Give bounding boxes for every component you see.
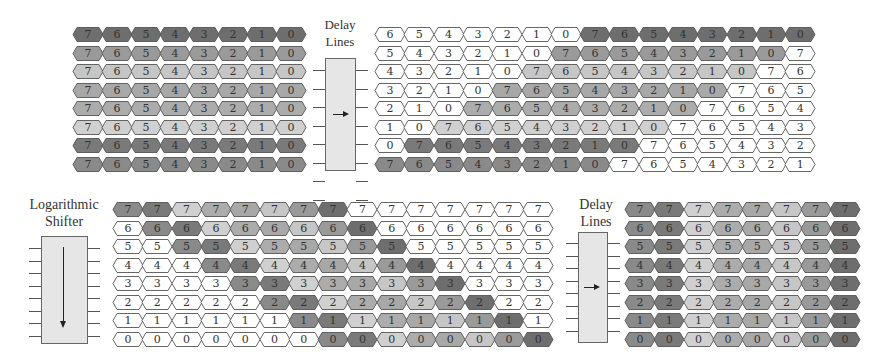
cell-value: 0 [347, 332, 377, 347]
cell-value: 3 [492, 157, 522, 172]
data-cell: 1 [697, 64, 727, 79]
label-line: Lines [568, 213, 624, 230]
data-cell: 4 [375, 64, 405, 79]
data-cell: 5 [772, 239, 802, 254]
data-cell: 3 [377, 276, 407, 291]
data-cell: 1 [713, 313, 743, 328]
label-line: Logarithmic [10, 196, 118, 213]
data-cell: 2 [494, 295, 524, 310]
cell-value: 3 [522, 138, 552, 153]
cell-value: 2 [580, 120, 610, 135]
data-cell: 2 [142, 295, 172, 310]
cell-value: 3 [172, 276, 202, 291]
data-cell: 0 [377, 332, 407, 347]
data-cell: 5 [375, 46, 405, 61]
cell-value: 3 [463, 27, 493, 42]
cell-value: 3 [494, 276, 524, 291]
pin-line [313, 107, 325, 108]
data-cell: 2 [375, 101, 405, 116]
data-cell: 3 [625, 276, 655, 291]
data-cell: 4 [465, 258, 495, 273]
data-cell: 2 [218, 138, 248, 153]
cell-value: 7 [230, 202, 260, 217]
data-cell: 2 [260, 295, 290, 310]
data-cell: 5 [727, 120, 757, 135]
cell-value: 0 [830, 332, 860, 347]
cell-value: 7 [404, 138, 434, 153]
data-cell: 6 [102, 101, 132, 116]
data-cell: 6 [289, 221, 319, 236]
data-cell: 6 [102, 46, 132, 61]
data-cell: 6 [756, 83, 786, 98]
cell-value: 6 [102, 120, 132, 135]
label-line: Shifter [10, 213, 118, 230]
data-cell: 7 [492, 83, 522, 98]
data-cell: 6 [654, 221, 684, 236]
cell-value: 6 [727, 101, 757, 116]
data-cell: 4 [113, 258, 143, 273]
data-cell: 6 [435, 221, 465, 236]
cell-value: 0 [435, 332, 465, 347]
data-cell: 3 [289, 276, 319, 291]
data-cell: 7 [625, 202, 655, 217]
cell-value: 6 [375, 27, 405, 42]
cell-value: 1 [609, 120, 639, 135]
data-cell: 5 [131, 138, 161, 153]
pin-line [566, 306, 578, 307]
data-cell: 4 [160, 101, 190, 116]
pin-line [356, 144, 368, 145]
data-cell: 3 [668, 46, 698, 61]
data-cell: 0 [276, 64, 306, 79]
delay-lines-bottom-label: Delay Lines [568, 196, 624, 230]
cell-value: 3 [189, 27, 219, 42]
cell-value: 0 [113, 332, 143, 347]
cell-value: 7 [772, 202, 802, 217]
cell-value: 0 [756, 46, 786, 61]
pin-line [566, 318, 578, 319]
cell-value: 3 [654, 276, 684, 291]
data-cell: 0 [276, 83, 306, 98]
cell-value: 5 [377, 239, 407, 254]
cell-value: 4 [756, 120, 786, 135]
data-cell: 4 [639, 46, 669, 61]
cell-value: 1 [463, 64, 493, 79]
data-cell: 6 [801, 221, 831, 236]
cell-value: 5 [625, 239, 655, 254]
cell-value: 2 [435, 295, 465, 310]
data-cell: 4 [404, 46, 434, 61]
data-cell: 0 [347, 332, 377, 347]
cell-value: 5 [347, 239, 377, 254]
cell-value: 3 [742, 276, 772, 291]
data-cell: 4 [347, 258, 377, 273]
cell-value: 5 [131, 120, 161, 135]
pin-line [566, 281, 578, 282]
logarithmic-shifter-label: Logarithmic Shifter [10, 196, 118, 230]
cell-value: 6 [102, 157, 132, 172]
cell-value: 4 [801, 258, 831, 273]
data-cell: 0 [289, 332, 319, 347]
data-cell: 1 [260, 313, 290, 328]
cell-value: 3 [142, 276, 172, 291]
cell-value: 6 [404, 157, 434, 172]
cell-value: 2 [142, 295, 172, 310]
data-cell: 3 [551, 120, 581, 135]
cell-value: 1 [318, 313, 348, 328]
data-cell: 4 [160, 64, 190, 79]
data-cell: 2 [201, 295, 231, 310]
cell-value: 3 [113, 276, 143, 291]
data-cell: 6 [201, 221, 231, 236]
cell-value: 2 [742, 295, 772, 310]
data-cell: 5 [625, 239, 655, 254]
data-cell: 3 [142, 276, 172, 291]
data-cell: 6 [625, 221, 655, 236]
data-cell: 2 [522, 157, 552, 172]
data-cell: 0 [697, 83, 727, 98]
data-cell: 0 [172, 332, 202, 347]
data-cell: 7 [668, 120, 698, 135]
cell-value: 3 [318, 276, 348, 291]
data-cell: 7 [73, 27, 103, 42]
cell-value: 6 [289, 221, 319, 236]
data-cell: 1 [318, 313, 348, 328]
data-cell: 4 [609, 64, 639, 79]
data-cell: 2 [830, 295, 860, 310]
